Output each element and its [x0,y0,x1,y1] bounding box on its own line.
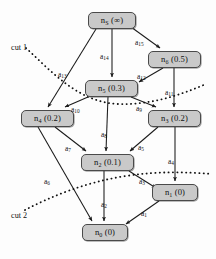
node-nS-value: (∞) [111,15,123,25]
edge-label-a4-subscript: 4 [171,160,174,166]
edge-label-a4: a4 [168,158,174,165]
edge-a6 [38,127,92,221]
edge-label-a7: a7 [65,145,71,152]
edge-label-a1: a1 [141,210,147,217]
node-nS-label: nS (∞) [101,16,123,25]
node-n1-value: (0) [175,187,185,197]
node-n6-value: (0.5) [171,54,188,64]
edge-label-a7-subscript: 7 [68,147,71,153]
node-n6[interactable]: n6 (0.5) [148,51,201,68]
edge-label-a5-subscript: 5 [141,146,144,152]
node-n1-label: n1 (0) [165,188,185,197]
edge-label-a14: a14 [100,53,109,60]
node-n0[interactable]: n0 (0) [82,224,128,241]
node-n5[interactable]: n5 (0.3) [85,80,138,97]
node-nS-subscript: S [105,20,109,26]
edge-label-a15-subscript: 15 [138,41,143,47]
node-n2[interactable]: n2 (0.1) [81,154,134,171]
node-n5-label: n5 (0.3) [98,84,125,93]
edge-label-a2-subscript: 2 [104,203,107,209]
edge-label-a15: a15 [135,39,144,46]
edge-label-a12-subscript: 12 [140,75,145,81]
edge-label-a6-subscript: 6 [47,180,50,186]
graph-edges-layer [0,0,216,259]
node-n3-value: (0.2) [171,113,188,123]
node-n2-subscript: 2 [99,162,102,168]
edge-label-a9: a9 [136,105,142,112]
node-n4-value: (0.2) [44,113,61,123]
node-nS[interactable]: nS (∞) [88,12,136,29]
node-n3-label: n3 (0.2) [161,114,188,123]
node-n3[interactable]: n3 (0.2) [148,110,201,127]
node-n4-subscript: 4 [39,118,42,124]
node-n2-value: (0.1) [104,157,121,167]
node-n3-subscript: 3 [166,118,169,124]
edge-a8 [106,97,108,151]
edge-label-a10-subscript: 10 [74,108,79,114]
node-n4-label: n4 (0.2) [34,114,61,123]
cut-label-2: cut 2 [11,212,27,220]
edge-label-a8-subscript: 8 [104,133,107,139]
edge-label-a3: a3 [139,178,145,185]
edge-label-a11-subscript: 11 [168,91,173,97]
node-n1[interactable]: n1 (0) [152,184,198,201]
node-n4[interactable]: n4 (0.2) [21,110,74,127]
edge-label-a11: a11 [165,89,173,96]
node-n0-value: (0) [105,227,115,237]
edge-label-a12: a12 [137,73,146,80]
edge-label-a2: a2 [101,201,107,208]
node-n6-subscript: 6 [166,59,169,65]
edge-label-a13-subscript: 13 [61,73,66,79]
edge-label-a8: a8 [101,131,107,138]
node-n0-subscript: 0 [99,232,102,238]
edge-label-a5: a5 [138,144,144,151]
diagram-canvas: nS (∞) n6 (0.5) n5 (0.3) n4 (0.2) n3 (0.… [0,0,216,259]
edge-label-a14-subscript: 14 [103,55,108,61]
node-n5-subscript: 5 [103,88,106,94]
node-n0-label: n0 (0) [95,228,115,237]
edge-label-a6: a6 [44,178,50,185]
node-n5-value: (0.3) [108,83,125,93]
edge-label-a1-subscript: 1 [144,212,147,218]
edge-label-a13: a13 [58,71,67,78]
edge-label-a10: a10 [71,106,80,113]
edge-a5 [130,127,158,151]
edge-label-a9-subscript: 9 [139,107,142,113]
edge-label-a3-subscript: 3 [142,180,145,186]
node-n2-label: n2 (0.1) [94,158,121,167]
node-n6-label: n6 (0.5) [161,55,188,64]
node-n1-subscript: 1 [169,192,172,198]
cut-label-1: cut 1 [11,44,27,52]
